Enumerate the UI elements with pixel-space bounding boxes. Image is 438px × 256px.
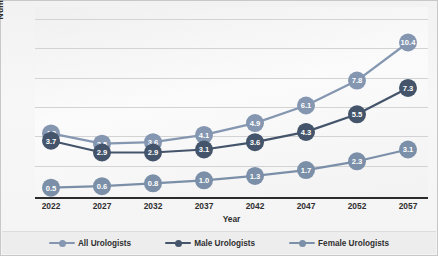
plot-area: 4.23.53.64.14.96.17.810.40.50.60.81.01.3… bbox=[35, 7, 428, 199]
data-point-label: 0.5 bbox=[46, 184, 57, 193]
chart-plot: 4.23.53.64.14.96.17.810.40.50.60.81.01.3… bbox=[35, 7, 428, 199]
data-point-label: 3.6 bbox=[250, 138, 261, 147]
data-point: 3.7 bbox=[42, 132, 60, 150]
legend-label: Male Urologists bbox=[194, 239, 255, 248]
data-point: 0.5 bbox=[42, 179, 60, 197]
data-point: 0.8 bbox=[144, 174, 162, 192]
legend-marker-icon bbox=[289, 239, 315, 247]
data-point-label: 6.1 bbox=[301, 101, 312, 110]
data-point-label: 4.1 bbox=[199, 131, 210, 140]
chart-container: Number Per 100,000 4.23.53.64.14.96.17.8… bbox=[0, 0, 438, 256]
data-point: 3.1 bbox=[195, 141, 213, 159]
legend-marker-icon bbox=[49, 239, 75, 247]
data-point-label: 5.5 bbox=[352, 110, 363, 119]
data-point: 7.8 bbox=[348, 72, 366, 90]
data-point-label: 0.6 bbox=[97, 182, 108, 191]
data-point-label: 2.9 bbox=[148, 148, 159, 157]
data-point: 1.7 bbox=[297, 161, 315, 179]
data-point: 3.6 bbox=[246, 133, 264, 151]
data-point-label: 0.8 bbox=[148, 179, 159, 188]
data-point: 5.5 bbox=[348, 105, 366, 123]
y-axis-title: Number Per 100,000 bbox=[0, 0, 5, 37]
data-point: 2.9 bbox=[144, 144, 162, 162]
data-point-label: 7.3 bbox=[403, 84, 414, 93]
data-point: 2.9 bbox=[93, 144, 111, 162]
data-point-label: 3.1 bbox=[403, 145, 414, 154]
legend-item-male-urologists[interactable]: Male Urologists bbox=[165, 239, 255, 248]
x-tick-2047: 2047 bbox=[297, 201, 316, 211]
data-point-label: 3.7 bbox=[46, 137, 57, 146]
x-tick-2027: 2027 bbox=[93, 201, 112, 211]
legend-label: All Urologists bbox=[78, 239, 131, 248]
data-point: 7.3 bbox=[399, 79, 417, 97]
data-point-label: 1.0 bbox=[199, 176, 210, 185]
data-point: 0.6 bbox=[93, 177, 111, 195]
x-tick-2057: 2057 bbox=[399, 201, 418, 211]
data-point: 6.1 bbox=[297, 97, 315, 115]
x-axis-line bbox=[35, 197, 428, 199]
series-line-all-urologists bbox=[51, 43, 408, 144]
legend-item-all-urologists[interactable]: All Urologists bbox=[49, 239, 131, 248]
data-point-label: 7.8 bbox=[352, 76, 363, 85]
legend-label: Female Urologists bbox=[318, 239, 389, 248]
data-point-label: 4.9 bbox=[250, 119, 261, 128]
x-tick-2022: 2022 bbox=[42, 201, 61, 211]
data-point-label: 3.1 bbox=[199, 145, 210, 154]
data-point-label: 2.3 bbox=[352, 157, 363, 166]
legend-marker-icon bbox=[165, 239, 191, 247]
data-point-label: 2.9 bbox=[97, 148, 108, 157]
x-tick-2037: 2037 bbox=[195, 201, 214, 211]
data-point: 10.4 bbox=[399, 34, 417, 52]
data-point: 4.3 bbox=[297, 123, 315, 141]
x-axis-tick-labels: 20222027203220372042204720522057 bbox=[35, 201, 428, 214]
x-tick-2052: 2052 bbox=[348, 201, 367, 211]
chart-legend: All UrologistsMale UrologistsFemale Urol… bbox=[2, 231, 436, 254]
x-axis-title: Year bbox=[35, 214, 428, 224]
data-point: 2.3 bbox=[348, 152, 366, 170]
data-point-label: 4.3 bbox=[301, 128, 312, 137]
data-point-label: 1.7 bbox=[301, 166, 312, 175]
data-point: 1.0 bbox=[195, 171, 213, 189]
x-tick-2042: 2042 bbox=[246, 201, 265, 211]
data-point-label: 10.4 bbox=[401, 38, 417, 47]
data-point-label: 1.3 bbox=[250, 172, 261, 181]
legend-item-female-urologists[interactable]: Female Urologists bbox=[289, 239, 389, 248]
data-point: 4.9 bbox=[246, 114, 264, 132]
data-point: 3.1 bbox=[399, 141, 417, 159]
data-point: 1.3 bbox=[246, 167, 264, 185]
x-tick-2032: 2032 bbox=[144, 201, 163, 211]
